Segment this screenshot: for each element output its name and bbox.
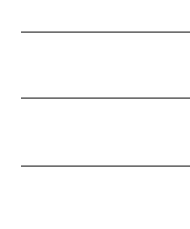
horizontal-rule-1: [21, 31, 190, 33]
horizontal-rule-3: [21, 165, 190, 167]
ruled-sheet: [0, 0, 190, 229]
horizontal-rule-2: [21, 97, 190, 99]
